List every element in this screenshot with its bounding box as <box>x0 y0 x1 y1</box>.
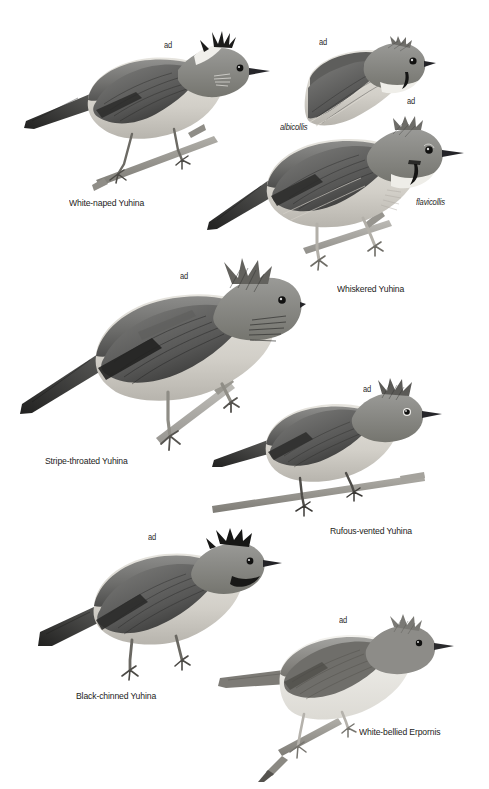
species-label-black-chinned-yuhina: Black-chinned Yuhina <box>76 691 156 700</box>
eye <box>278 296 286 304</box>
flavicollis-illustration <box>205 108 465 278</box>
figure-whiskered-yuhina-flavicollis <box>205 108 465 278</box>
eye <box>247 558 254 565</box>
bill <box>442 150 464 157</box>
rufous-vented-yuhina-illustration <box>210 378 470 518</box>
white-bellied-erpornis-illustration <box>218 612 458 782</box>
species-label-whiskered-yuhina: Whiskered Yuhina <box>337 284 404 293</box>
age-label-rufous-vented: ad <box>363 386 371 394</box>
crest <box>378 378 412 396</box>
bill <box>263 560 282 567</box>
figure-white-bellied-erpornis <box>218 612 458 782</box>
tail <box>20 354 106 414</box>
species-label-white-naped-yuhina: White-naped Yuhina <box>69 198 144 207</box>
tail <box>218 670 288 688</box>
age-label-white-naped: ad <box>164 42 172 50</box>
age-label-flavicollis: ad <box>407 98 415 106</box>
tail <box>207 180 277 230</box>
crest <box>393 116 423 130</box>
subspecies-label-flavicollis: flavicollis <box>416 198 445 206</box>
species-label-white-bellied-erpornis: White-bellied Erpornis <box>359 727 440 736</box>
bill <box>249 68 270 75</box>
species-label-stripe-throated-yuhina: Stripe-throated Yuhina <box>45 456 128 465</box>
eye <box>416 640 422 646</box>
bill <box>422 411 442 418</box>
head <box>191 528 282 594</box>
bill <box>424 61 436 67</box>
head <box>366 614 454 674</box>
bill <box>434 643 454 650</box>
eye <box>425 146 433 154</box>
figure-rufous-vented-yuhina <box>210 378 470 518</box>
age-label-albicollis: ad <box>319 39 327 47</box>
feet <box>122 656 190 680</box>
species-label-rufous-vented-yuhina: Rufous-vented Yuhina <box>330 526 412 535</box>
head <box>364 36 436 93</box>
eye <box>404 409 410 415</box>
age-label-erpornis: ad <box>339 617 347 625</box>
head <box>213 258 306 341</box>
bird-plate: ad White-naped Yuhina <box>0 0 489 789</box>
bill <box>300 302 306 308</box>
age-label-stripe-throated: ad <box>180 273 188 281</box>
crest <box>224 258 272 284</box>
tail <box>24 94 96 129</box>
eye <box>409 57 416 64</box>
eye <box>237 65 244 72</box>
head <box>178 31 270 97</box>
age-label-black-chinned: ad <box>148 534 156 542</box>
